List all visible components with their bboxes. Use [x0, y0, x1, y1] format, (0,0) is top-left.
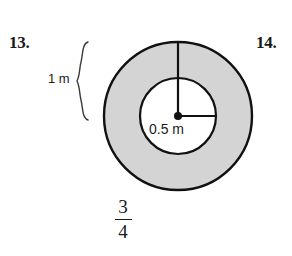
- fraction-numerator: 3: [108, 196, 138, 218]
- answer-fraction: 3 4: [108, 196, 138, 243]
- outer-radius-label: 1 m: [48, 72, 70, 85]
- fraction-denominator: 4: [108, 221, 138, 243]
- worksheet-page: 13. 14. 1 m 0.5 m 3 4: [0, 0, 292, 256]
- inner-radius-label: 0.5 m: [149, 122, 184, 136]
- fraction-bar: [115, 219, 132, 220]
- measurement-brace: [77, 42, 88, 120]
- annulus-figure: [0, 0, 292, 256]
- center-dot: [174, 112, 182, 120]
